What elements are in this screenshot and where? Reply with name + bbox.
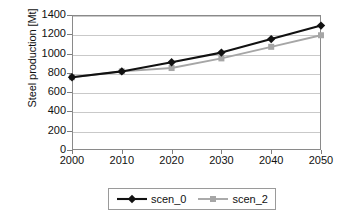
series-plot [72, 15, 321, 150]
y-tick-label: 1400 [26, 9, 66, 20]
square-marker-icon [197, 193, 229, 205]
x-tick-mark [122, 150, 123, 154]
x-tick-label: 2050 [298, 155, 342, 166]
x-tick-label: 2010 [99, 155, 145, 166]
x-tick-label: 2020 [149, 155, 195, 166]
steel-production-line-chart: Steel production [Mt] 020040060080010001… [0, 0, 342, 224]
data-point-marker [317, 21, 325, 29]
series-line [72, 35, 321, 77]
x-tick-label: 2030 [198, 155, 244, 166]
x-tick-mark [221, 150, 222, 154]
series-scen_0 [68, 21, 325, 81]
y-tick-label: 1200 [26, 28, 66, 39]
x-tick-mark [172, 150, 173, 154]
chart-legend: scen_0scen_2 [108, 188, 276, 210]
y-tick-label: 800 [26, 67, 66, 78]
legend-label: scen_2 [232, 194, 267, 205]
series-line [72, 26, 321, 78]
legend-entry-scen_2[interactable]: scen_2 [197, 193, 267, 205]
x-tick-mark [321, 150, 322, 154]
diamond-marker-icon [116, 193, 148, 205]
x-tick-mark [271, 150, 272, 154]
x-tick-label: 2000 [49, 155, 95, 166]
data-point-marker [268, 44, 274, 50]
legend-label: scen_0 [151, 194, 186, 205]
x-tick-label: 2040 [248, 155, 294, 166]
y-tick-label: 1000 [26, 48, 66, 59]
data-point-marker [318, 32, 324, 38]
y-tick-label: 600 [26, 86, 66, 97]
data-point-marker [267, 35, 275, 43]
y-tick-label: 400 [26, 105, 66, 116]
legend-entry-scen_0[interactable]: scen_0 [116, 193, 186, 205]
x-tick-mark [72, 150, 73, 154]
y-tick-label: 200 [26, 125, 66, 136]
